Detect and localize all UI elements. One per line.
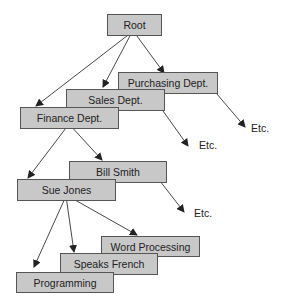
node-label: Programming xyxy=(33,277,96,289)
etc-label-bill-smith: Etc. xyxy=(194,207,212,219)
node-root: Root xyxy=(107,14,162,36)
node-label: Root xyxy=(123,19,145,31)
node-label: Bill Smith xyxy=(96,166,140,178)
node-label: Purchasing Dept. xyxy=(128,77,209,89)
node-programming: Programming xyxy=(16,272,114,293)
node-label: Sales Dept. xyxy=(88,94,142,106)
node-label: Word Processing xyxy=(111,241,191,253)
node-label: Finance Dept. xyxy=(37,112,102,124)
etc-label-purchasing: Etc. xyxy=(251,122,269,134)
node-sue-jones: Sue Jones xyxy=(17,179,116,201)
node-label: Sue Jones xyxy=(42,184,92,196)
tree-diagram: Purchasing Dept. Sales Dept. Finance Dep… xyxy=(0,0,281,308)
node-label: Speaks French xyxy=(74,258,145,270)
etc-label-sales: Etc. xyxy=(199,139,217,151)
node-finance-dept: Finance Dept. xyxy=(20,107,119,129)
